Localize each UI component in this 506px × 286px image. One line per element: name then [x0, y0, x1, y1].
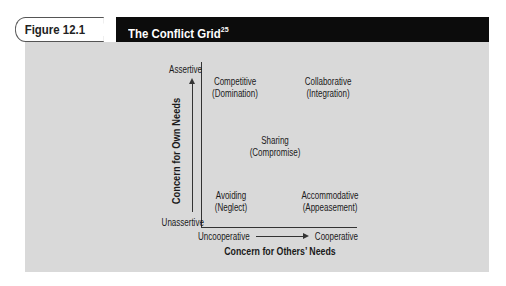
style-name: Sharing: [247, 135, 303, 147]
up-arrow-icon: [189, 78, 195, 84]
figure-title-bar: The Conflict Grid25: [116, 17, 489, 42]
style-avoiding: Avoiding (Neglect): [211, 190, 251, 214]
x-axis-title: Concern for Others’ Needs: [224, 245, 336, 257]
y-axis-title: Concern for Own Needs: [170, 87, 182, 215]
style-accommodative: Accommodative (Appeasement): [298, 190, 362, 214]
style-alt: (Neglect): [211, 202, 251, 214]
right-arrow-icon: [303, 233, 309, 239]
style-competitive: Competitive (Domination): [207, 76, 263, 100]
style-alt: (Appeasement): [298, 202, 362, 214]
up-arrow-shaft: [192, 82, 193, 212]
y-axis-top-label: Assertive: [168, 64, 202, 76]
y-axis-line: [201, 62, 202, 228]
style-name: Competitive: [207, 76, 263, 88]
style-alt: (Compromise): [247, 147, 303, 159]
style-sharing: Sharing (Compromise): [247, 135, 303, 159]
style-name: Collaborative: [298, 76, 359, 88]
style-alt: (Integration): [298, 88, 359, 100]
footnote-ref: 25: [221, 25, 229, 34]
x-axis-line: [201, 227, 357, 228]
figure-title-text: The Conflict Grid: [128, 26, 221, 41]
style-collaborative: Collaborative (Integration): [298, 76, 359, 100]
right-arrow-shaft: [256, 236, 304, 237]
style-name: Avoiding: [211, 190, 251, 202]
y-axis-bottom-label: Unassertive: [162, 217, 200, 229]
x-axis-right-label: Cooperative: [312, 231, 358, 243]
x-axis-left-label: Uncooperative: [198, 231, 246, 243]
style-alt: (Domination): [207, 88, 263, 100]
style-name: Accommodative: [298, 190, 362, 202]
figure-number-label: Figure 12.1: [15, 17, 104, 42]
